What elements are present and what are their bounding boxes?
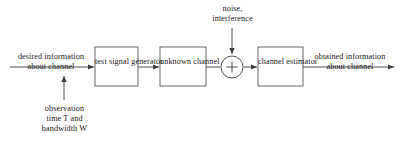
noise-source-label: noise, interference [190, 4, 275, 24]
input-label-line-1: desired information [8, 52, 94, 62]
input-label-desired-information: desired information about channel [8, 52, 94, 72]
block-channel-estimator [258, 47, 303, 86]
noise-label-line-1: noise, [190, 4, 275, 14]
observation-parameters-label: observation time T and bandwidth W [23, 104, 106, 134]
block-diagram-canvas: test signal generator unknown channel ch… [0, 0, 403, 151]
output-label-obtained-information: obtained information about channel [304, 52, 396, 72]
output-label-line-2: about channel [304, 62, 396, 72]
input-label-line-2: about channel [8, 62, 94, 72]
block-test-signal-generator [95, 47, 138, 86]
noise-label-line-2: interference [190, 14, 275, 24]
output-label-line-1: obtained information [304, 52, 396, 62]
observation-label-line-1: observation [23, 104, 106, 114]
observation-label-line-2: time T and [23, 114, 106, 124]
block-unknown-channel [160, 47, 206, 86]
observation-label-line-3: bandwidth W [23, 124, 106, 134]
